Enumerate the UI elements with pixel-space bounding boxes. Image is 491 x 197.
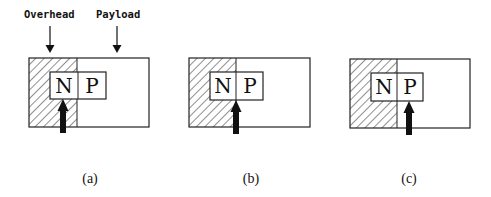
caption-a: (a) [82, 171, 98, 187]
panel-a: N P (a) [29, 58, 149, 187]
overhead-label: Overhead [24, 8, 75, 20]
cell-p: P [403, 75, 416, 99]
payload-arrow-icon [113, 26, 122, 53]
overhead-arrow-icon [46, 26, 55, 53]
panel-c: N P (c) [350, 59, 470, 187]
diagram-canvas: Overhead Payload N P (a) N P [0, 0, 491, 197]
payload-label: Payload [96, 8, 140, 20]
cell-n: N [55, 74, 73, 98]
cell-p: P [85, 74, 98, 98]
cell-n: N [214, 74, 232, 98]
caption-b: (b) [243, 171, 260, 187]
panel-b: N P (b) [189, 58, 310, 187]
cell-p: P [243, 74, 256, 98]
pointer-arrow-icon [404, 101, 415, 135]
caption-c: (c) [401, 171, 417, 187]
cell-n: N [375, 75, 393, 99]
